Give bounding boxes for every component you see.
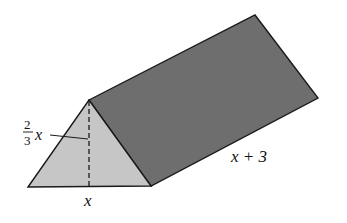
- height-label: 2 3 x: [23, 117, 42, 148]
- base-label: x: [83, 191, 92, 210]
- height-label-variable: x: [34, 126, 42, 143]
- height-label-denominator: 3: [24, 133, 31, 148]
- length-label: x + 3: [230, 147, 267, 166]
- height-label-numerator: 2: [24, 117, 31, 132]
- prism-diagram: 2 3 x x x + 3: [0, 0, 347, 223]
